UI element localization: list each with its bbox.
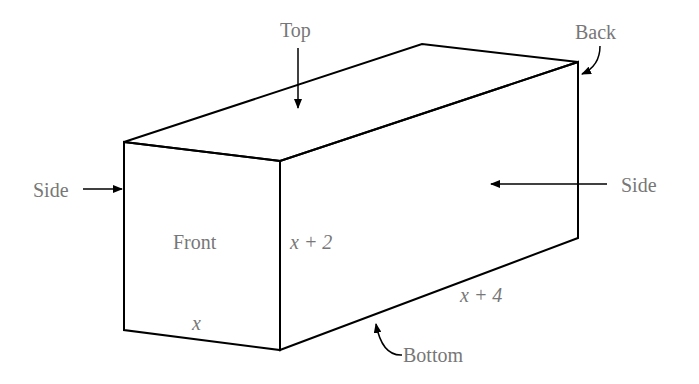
label-front: Front [173, 232, 216, 252]
dimension-width: x [192, 313, 201, 333]
back-arrow [582, 46, 600, 74]
label-bottom: Bottom [403, 345, 463, 365]
label-back: Back [575, 22, 616, 42]
label-side-left: Side [33, 180, 69, 200]
dimension-height: x + 2 [290, 232, 332, 252]
bottom-arrow [376, 324, 402, 355]
side-face [280, 62, 578, 350]
box-diagram: Top Back Side Side Front x + 2 x + 4 x B… [0, 0, 699, 384]
top-face [124, 44, 578, 161]
box-drawing [0, 0, 699, 384]
dimension-length: x + 4 [460, 285, 502, 305]
label-side-right: Side [621, 175, 657, 195]
label-top: Top [280, 20, 311, 40]
